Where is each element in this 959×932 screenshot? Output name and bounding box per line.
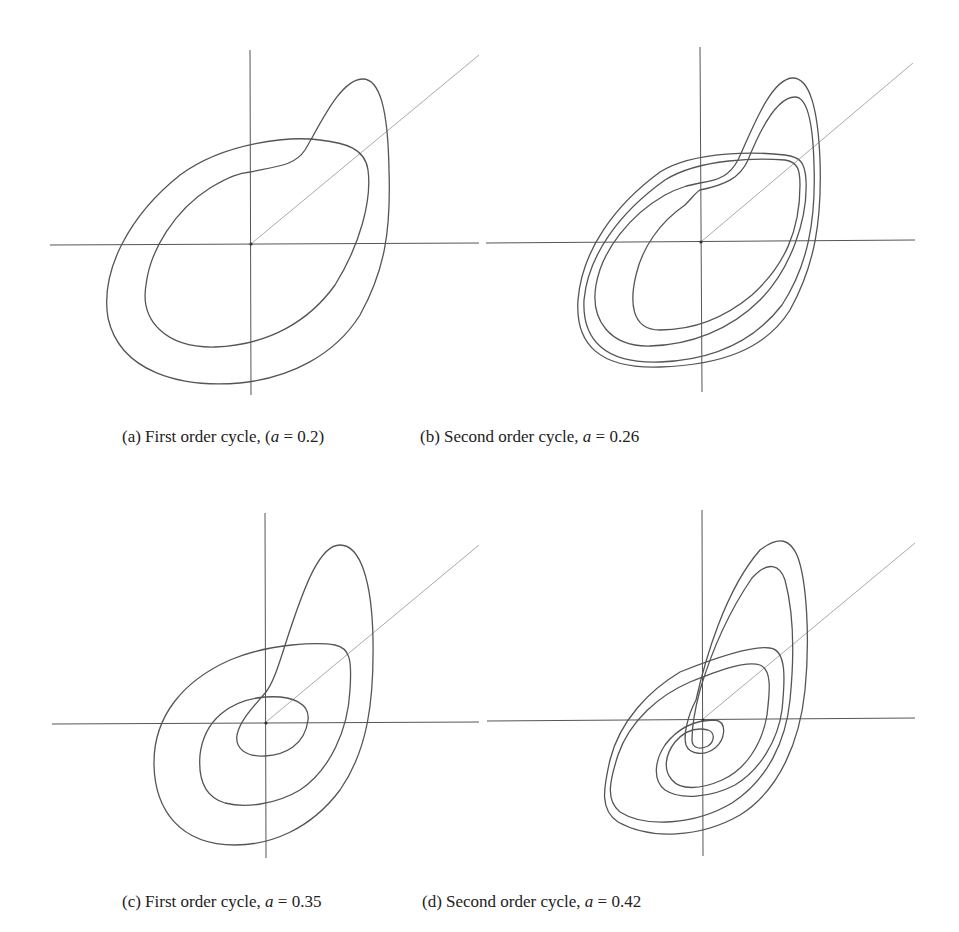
caption-c-text: (c) First order cycle, xyxy=(122,892,265,911)
caption-a: (a) First order cycle, (a = 0.2) xyxy=(122,427,324,447)
panel-b-y-axis xyxy=(700,47,702,392)
figure: (a) First order cycle, (a = 0.2) (b) Sec… xyxy=(0,0,959,932)
panel-b-orbit-inner xyxy=(584,97,814,362)
panel-a-diagonal xyxy=(252,55,479,243)
caption-b-text: (b) Second order cycle, xyxy=(420,427,583,446)
panel-b-origin xyxy=(699,240,702,243)
panel-c-orbit xyxy=(154,545,373,845)
caption-c-symbol: a xyxy=(265,892,274,911)
panel-d-x-axis xyxy=(487,718,915,721)
panel-d-plot xyxy=(487,510,915,856)
panel-a-plot xyxy=(50,50,479,395)
phase-portraits xyxy=(0,0,959,932)
panel-b-plot xyxy=(486,47,915,392)
panel-d-diagonal xyxy=(703,543,915,719)
panel-a-y-axis xyxy=(250,50,251,395)
panel-a-x-axis xyxy=(50,243,479,245)
caption-a-value: 0.2 xyxy=(297,427,318,446)
caption-b-value: 0.26 xyxy=(609,427,639,446)
caption-d-value: 0.42 xyxy=(611,892,641,911)
panel-c-origin xyxy=(264,721,267,724)
caption-a-symbol: a xyxy=(271,427,280,446)
caption-c-value: 0.35 xyxy=(292,892,322,911)
caption-b: (b) Second order cycle, a = 0.26 xyxy=(420,427,639,447)
caption-d-text: (d) Second order cycle, xyxy=(422,892,585,911)
caption-d: (d) Second order cycle, a = 0.42 xyxy=(422,892,641,912)
caption-a-suffix: ) xyxy=(319,427,325,446)
panel-a-origin xyxy=(249,242,252,245)
caption-c: (c) First order cycle, a = 0.35 xyxy=(122,892,321,912)
panel-d-orbit-a xyxy=(605,541,808,834)
caption-d-symbol: a xyxy=(585,892,594,911)
panel-a-orbit xyxy=(107,79,390,384)
panel-d-orbit-b xyxy=(610,566,792,822)
panel-c-plot xyxy=(52,513,479,858)
caption-a-text: (a) First order cycle, ( xyxy=(122,427,271,446)
caption-b-symbol: a xyxy=(583,427,592,446)
panel-c-y-axis xyxy=(265,513,266,858)
